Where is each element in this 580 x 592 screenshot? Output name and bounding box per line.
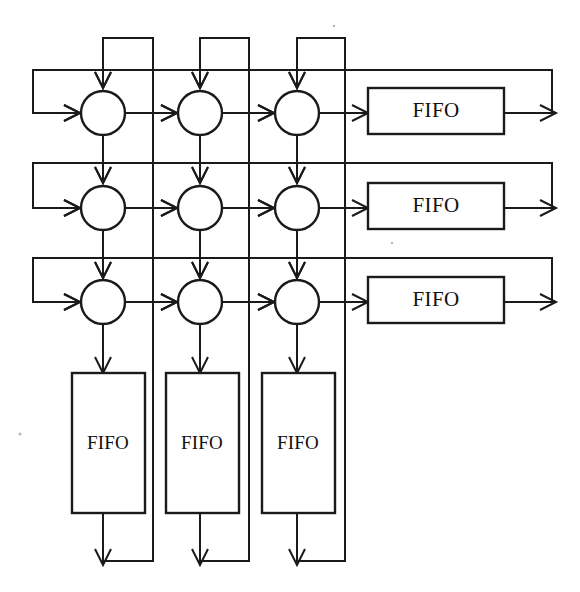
link-r2c3-to-fifo-row-2: [319, 200, 368, 216]
fifo-row-1[interactable]: FIFO: [368, 88, 504, 134]
scan-speck: [333, 25, 336, 28]
fifo-row-3-output-wire: [504, 294, 556, 310]
link-r3c2-to-fifo-col-2: [192, 324, 208, 373]
link-r3c1-to-r3c2: [125, 294, 177, 310]
link-r2c1-to-r3c1: [95, 230, 111, 278]
pe-node-r3c2[interactable]: [178, 280, 222, 324]
link-r3c3-to-fifo-row-3: [319, 294, 368, 310]
systolic-array-diagram: FIFO FIFO FIFO FIFO FIFO FIFO: [0, 0, 580, 592]
fifo-col-2-label: FIFO: [181, 432, 223, 453]
fifo-col-1-output-wire: [95, 513, 111, 565]
fifo-col-3-output-wire: [289, 513, 305, 565]
fifo-row-3[interactable]: FIFO: [368, 277, 504, 323]
fifo-row-3-label: FIFO: [412, 287, 459, 311]
link-r1c3-to-fifo-row-1: [319, 105, 368, 121]
pe-node-r3c1[interactable]: [81, 280, 125, 324]
pe-node-r2c2[interactable]: [178, 186, 222, 230]
fifo-col-3-label: FIFO: [277, 432, 319, 453]
link-r1c3-to-r2c3: [289, 135, 305, 183]
fifo-row-2-label: FIFO: [412, 193, 459, 217]
link-r1c1-to-r2c1: [95, 135, 111, 183]
pe-node-r2c1[interactable]: [81, 186, 125, 230]
link-r3c1-to-fifo-col-1: [95, 324, 111, 373]
diagram-canvas: FIFO FIFO FIFO FIFO FIFO FIFO: [0, 0, 580, 592]
fifo-row-1-label: FIFO: [412, 98, 459, 122]
pe-node-r1c1[interactable]: [81, 91, 125, 135]
fifo-col-1-label: FIFO: [87, 432, 129, 453]
fifo-col-2-output-wire: [192, 513, 208, 565]
link-r2c2-to-r3c2: [192, 230, 208, 278]
pe-node-r1c3[interactable]: [275, 91, 319, 135]
fifo-row-2-output-wire: [504, 200, 556, 216]
link-r2c3-to-r3c3: [289, 230, 305, 278]
pe-node-r1c2[interactable]: [178, 91, 222, 135]
link-r2c1-to-r2c2: [125, 200, 177, 216]
link-r1c1-to-r1c2: [125, 105, 177, 121]
fifo-col-1[interactable]: FIFO: [72, 373, 145, 513]
pe-node-r3c3[interactable]: [275, 280, 319, 324]
pe-node-r2c3[interactable]: [275, 186, 319, 230]
fifo-row-1-output-wire: [504, 105, 556, 121]
scan-speck: [391, 242, 393, 244]
link-r1c2-to-r2c2: [192, 135, 208, 183]
fifo-col-3[interactable]: FIFO: [262, 373, 335, 513]
fifo-row-2[interactable]: FIFO: [368, 183, 504, 229]
fifo-col-2[interactable]: FIFO: [166, 373, 239, 513]
scan-speck: [18, 432, 21, 435]
link-r3c3-to-fifo-col-3: [289, 324, 305, 373]
